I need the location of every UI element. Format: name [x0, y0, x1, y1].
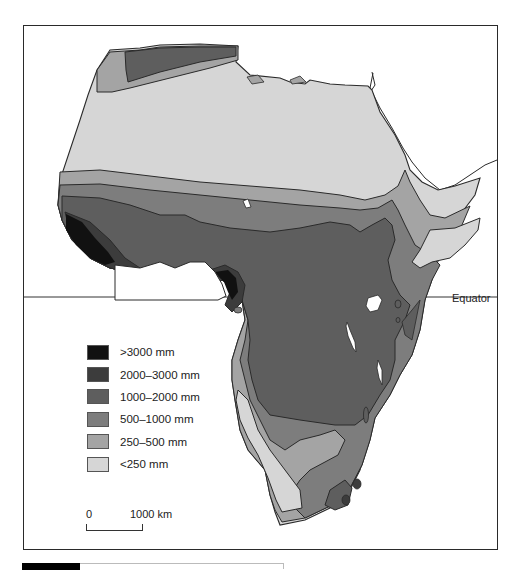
legend-swatch	[87, 367, 109, 382]
zone-se-2000-3000-a	[353, 479, 361, 489]
legend-label: 500–1000 mm	[120, 413, 194, 425]
scale-bar: 0 1000 km	[86, 508, 196, 538]
legend-swatch	[87, 412, 109, 427]
bottom-black-block	[22, 563, 80, 570]
legend-item-gt3000: >3000 mm	[87, 341, 200, 363]
bottom-strip	[22, 563, 284, 569]
zone-ea-patch-2	[396, 318, 400, 323]
legend-item-2000-3000: 2000–3000 mm	[87, 363, 200, 385]
zone-malawi-patch	[364, 407, 369, 423]
zone-cameroon-patch	[234, 307, 242, 313]
legend-label: 2000–3000 mm	[120, 369, 200, 381]
scale-start-label: 0	[86, 508, 92, 520]
legend: >3000 mm 2000–3000 mm 1000–2000 mm 500–1…	[87, 341, 200, 475]
legend-item-lt250: <250 mm	[87, 453, 200, 475]
legend-swatch	[87, 389, 109, 404]
legend-swatch	[87, 434, 109, 449]
legend-swatch	[87, 457, 109, 472]
gulf-of-guinea	[115, 262, 226, 300]
equator-label: Equator	[452, 292, 491, 304]
zone-ea-patch-1	[395, 300, 401, 308]
legend-label: 1000–2000 mm	[120, 391, 200, 403]
zone-coast-blob-2	[290, 76, 306, 84]
legend-item-1000-2000: 1000–2000 mm	[87, 386, 200, 408]
legend-swatch	[87, 345, 109, 360]
legend-label: <250 mm	[120, 458, 168, 470]
scale-bar-line	[86, 524, 143, 531]
scale-end-label: 1000 km	[130, 508, 172, 520]
legend-item-250-500: 250–500 mm	[87, 431, 200, 453]
zone-se-2000-3000-b	[342, 495, 350, 505]
legend-label: 250–500 mm	[120, 436, 187, 448]
legend-item-500-1000: 500–1000 mm	[87, 408, 200, 430]
legend-label: >3000 mm	[120, 346, 175, 358]
